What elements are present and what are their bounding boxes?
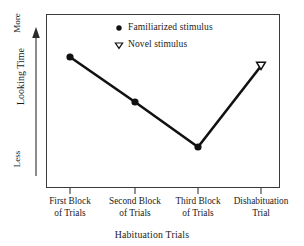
legend-label-familiarized: Familiarized stimulus	[128, 22, 213, 33]
y-axis-title: Looking Time	[15, 17, 26, 137]
y-axis-low-label: Less	[12, 137, 22, 181]
x-axis-title: Habituation Trials	[0, 229, 304, 240]
legend-label-novel: Novel stimulus	[128, 39, 187, 50]
filled-circle-icon	[110, 22, 128, 34]
x-tick-label-line2: Trial	[218, 208, 304, 220]
legend-item-novel: Novel stimulus	[110, 37, 270, 52]
legend: Familiarized stimulus Novel stimulus	[110, 20, 270, 54]
x-axis-ticks	[70, 188, 261, 194]
legend-item-familiarized: Familiarized stimulus	[110, 20, 270, 35]
x-tick-label-line1: Dishabituation	[218, 196, 304, 208]
open-triangle-down-icon	[110, 39, 128, 51]
habituation-looking-time-chart: Familiarized stimulus Novel stimulus Mor…	[0, 0, 304, 246]
y-axis: More Looking Time Less	[0, 14, 46, 188]
x-tick-label-dishabituation: Dishabituation Trial	[218, 196, 304, 219]
